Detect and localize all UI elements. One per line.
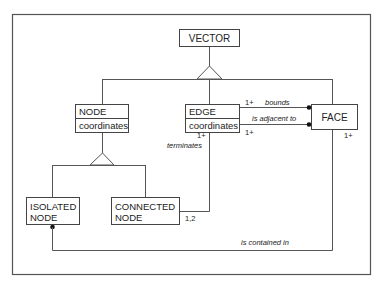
terminates-node-multiplicity: 1,2 (185, 214, 195, 223)
adjacent-multiplicity: 1+ (245, 128, 254, 137)
class-vector[interactable]: VECTOR (179, 29, 240, 47)
generalization-triangle-vector (197, 66, 222, 79)
bounds-multiplicity: 1+ (245, 98, 254, 107)
class-vector-name: VECTOR (189, 33, 231, 44)
class-isolated-node[interactable]: ISOLATED NODE (26, 197, 80, 225)
class-node-name: NODE (76, 105, 128, 118)
class-node[interactable]: NODE coordinates (75, 104, 129, 133)
class-isolated-node-line1: ISOLATED (30, 201, 77, 212)
class-edge[interactable]: EDGE coordinates (185, 104, 240, 133)
generalization-triangle-node (90, 153, 114, 165)
contained-label: is contained in (241, 238, 289, 247)
class-connected-node[interactable]: CONNECTED NODE (111, 197, 180, 225)
terminates-edge-multiplicity: 1+ (197, 131, 206, 140)
class-isolated-node-line2: NODE (30, 212, 77, 223)
class-edge-name: EDGE (186, 105, 239, 118)
class-connected-node-line2: NODE (115, 212, 177, 223)
class-face-name: FACE (321, 112, 347, 123)
bounds-label: bounds (265, 98, 290, 107)
class-node-attribute: coordinates (76, 118, 128, 132)
class-face[interactable]: FACE (311, 104, 358, 130)
adjacent-label: is adjacent to (252, 114, 296, 123)
terminates-label: terminates (167, 141, 202, 150)
class-connected-node-line1: CONNECTED (115, 201, 177, 212)
class-edge-attribute: coordinates (186, 118, 239, 132)
contained-face-multiplicity: 1+ (344, 131, 353, 140)
